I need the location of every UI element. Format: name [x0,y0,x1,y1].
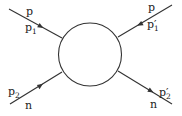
label-br-particle: n [150,98,157,111]
label-bl-momentum: p [8,85,15,98]
label-tl-particle: p [26,5,33,18]
interaction-blob [59,23,122,86]
scattering-diagram: p p 1 p p′ 1 p 2 n p′ 2 n [0,0,182,116]
label-tl-momentum-sub: 1 [32,27,37,36]
label-br-momentum-sub: 2 [166,92,171,101]
leg-top-right [118,5,172,37]
label-tl-momentum: p [25,21,32,34]
label-tr-particle: p [148,1,155,14]
label-bl-momentum-sub: 2 [15,91,20,100]
arrow-icon [137,21,144,26]
label-tr-momentum-sub: 1 [154,24,159,33]
label-bl-particle: n [25,99,32,112]
